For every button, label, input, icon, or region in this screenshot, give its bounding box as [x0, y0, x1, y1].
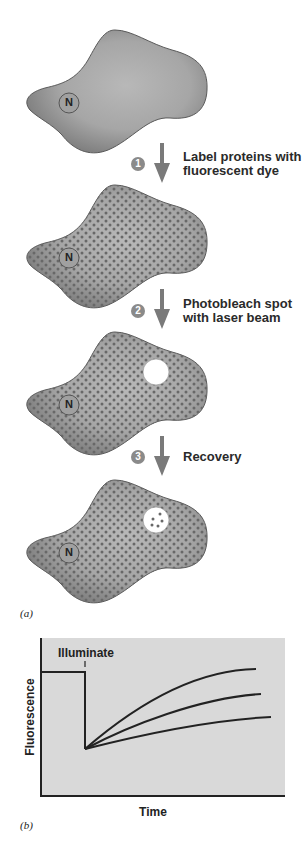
- arrow-down-icon: [154, 436, 170, 476]
- nucleus-label: N: [63, 251, 75, 263]
- step-number-badge: 1: [131, 157, 145, 171]
- step-1-line1: Label proteins with: [183, 150, 301, 164]
- nucleus-label: N: [63, 398, 75, 410]
- chart-background: [41, 638, 285, 796]
- fluorescence-recovery-chart: Illuminate Time Fluorescence: [23, 638, 285, 819]
- step-1-label: Label proteins with fluorescent dye: [183, 150, 301, 178]
- x-axis-label: Time: [139, 805, 167, 819]
- illuminate-annotation: Illuminate: [58, 646, 114, 660]
- step-3-line1: Recovery: [183, 450, 242, 464]
- fluorescent-dots: [27, 185, 207, 308]
- step-2-line1: Photobleach spot: [183, 297, 292, 311]
- nucleus-label: N: [63, 546, 75, 558]
- step-number-badge: 2: [131, 304, 145, 318]
- fluorescent-dots: [27, 332, 207, 455]
- cell-unlabeled: [27, 30, 207, 153]
- panel-b-label: (b): [20, 819, 33, 831]
- step-2-label: Photobleach spot with laser beam: [183, 297, 292, 325]
- arrow-down-icon: [154, 143, 170, 183]
- cell-photobleached: [27, 332, 207, 455]
- bleached-spot: [143, 359, 169, 385]
- nucleus-label: N: [63, 96, 75, 108]
- fluorescent-dots: [27, 480, 207, 603]
- step-3-label: Recovery: [183, 450, 242, 464]
- recovering-spot: [143, 507, 169, 533]
- cell-labeled: [27, 185, 207, 308]
- arrow-down-icon: [154, 289, 170, 329]
- panel-a-label: (a): [20, 607, 33, 619]
- step-number-badge: 3: [131, 450, 145, 464]
- cell-recovering: [27, 480, 207, 603]
- frap-figure: Illuminate Time Fluorescence: [0, 0, 307, 867]
- step-2-line2: with laser beam: [183, 311, 292, 325]
- y-axis-label: Fluorescence: [23, 678, 37, 756]
- step-1-line2: fluorescent dye: [183, 164, 301, 178]
